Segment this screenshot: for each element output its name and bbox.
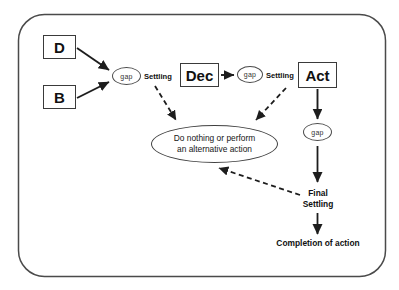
diagram-canvas: D B Dec Act gap gap gap Do nothing or pe…: [0, 0, 399, 290]
label-final-settling-line1: Final: [268, 188, 368, 199]
edge-settling2-to-alternative: [256, 88, 286, 120]
node-alternative-action-line1: Do nothing or perform: [174, 133, 255, 144]
node-alternative-action[interactable]: Do nothing or perform an alternative act…: [151, 125, 278, 163]
node-gap-2[interactable]: gap: [237, 66, 263, 83]
node-act[interactable]: Act: [298, 62, 337, 88]
edge-settling1-to-alternative: [155, 86, 176, 120]
node-dec[interactable]: Dec: [180, 63, 219, 87]
edge-label-settling-2: Settling: [266, 71, 294, 80]
node-alternative-action-line2: an alternative action: [177, 144, 252, 155]
node-gap-1[interactable]: gap: [112, 67, 141, 85]
label-final-settling-line2: Settling: [268, 199, 368, 210]
node-gap-3[interactable]: gap: [303, 123, 332, 141]
node-b[interactable]: B: [43, 85, 76, 109]
edge-label-settling-1: Settling: [144, 72, 172, 81]
edge-b-to-gap1: [77, 82, 109, 98]
edge-d-to-gap1: [77, 48, 109, 70]
label-final-settling: Final Settling: [268, 188, 368, 210]
node-d[interactable]: D: [43, 35, 76, 59]
label-completion-of-action: Completion of action: [248, 238, 388, 249]
